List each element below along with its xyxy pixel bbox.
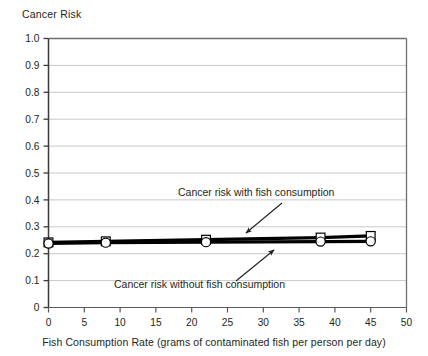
x-axis-ticks: 05101520253035404550 bbox=[46, 308, 413, 328]
y-axis-ticks: 00.10.20.30.40.50.60.70.80.91.0 bbox=[25, 33, 48, 313]
data-point-marker-circle bbox=[101, 238, 110, 247]
x-axis-label: Fish Consumption Rate (grams of contamin… bbox=[0, 336, 428, 348]
annotation-label-1: Cancer risk without fish consumption bbox=[114, 278, 285, 290]
x-tick-label: 45 bbox=[365, 317, 377, 328]
y-tick-label: 0.3 bbox=[25, 221, 39, 232]
x-tick-label: 15 bbox=[150, 317, 162, 328]
x-tick-label: 25 bbox=[222, 317, 234, 328]
data-series-group bbox=[44, 232, 375, 249]
y-tick-label: 1.0 bbox=[25, 33, 39, 44]
y-tick-label: 0 bbox=[34, 302, 40, 313]
y-tick-label: 0.4 bbox=[25, 195, 39, 206]
y-tick-label: 0.9 bbox=[25, 60, 39, 71]
cancer-risk-chart: Cancer Risk 00.10.20.30.40.50.60.70.80.9… bbox=[0, 0, 428, 356]
y-tick-label: 0.7 bbox=[25, 114, 39, 125]
data-point-marker-circle bbox=[316, 237, 325, 246]
x-tick-label: 40 bbox=[329, 317, 341, 328]
y-tick-label: 0.8 bbox=[25, 87, 39, 98]
x-tick-label: 50 bbox=[401, 317, 413, 328]
y-tick-label: 0.5 bbox=[25, 168, 39, 179]
data-point-marker-circle bbox=[366, 237, 375, 246]
data-point-marker-circle bbox=[201, 238, 210, 247]
y-tick-label: 0.6 bbox=[25, 141, 39, 152]
annotation-arrow-1 bbox=[236, 250, 274, 281]
data-point-marker-circle bbox=[44, 239, 53, 248]
x-tick-label: 30 bbox=[258, 317, 270, 328]
y-tick-label: 0.1 bbox=[25, 275, 39, 286]
annotation-label-0: Cancer risk with fish consumption bbox=[178, 186, 335, 198]
x-tick-label: 0 bbox=[46, 317, 52, 328]
chart-canvas: 00.10.20.30.40.50.60.70.80.91.0 05101520… bbox=[0, 0, 428, 356]
x-tick-label: 10 bbox=[114, 317, 126, 328]
x-tick-label: 20 bbox=[186, 317, 198, 328]
x-tick-label: 35 bbox=[293, 317, 305, 328]
y-tick-label: 0.2 bbox=[25, 248, 39, 259]
annotation-arrow-0 bbox=[246, 203, 282, 233]
x-tick-label: 5 bbox=[81, 317, 87, 328]
